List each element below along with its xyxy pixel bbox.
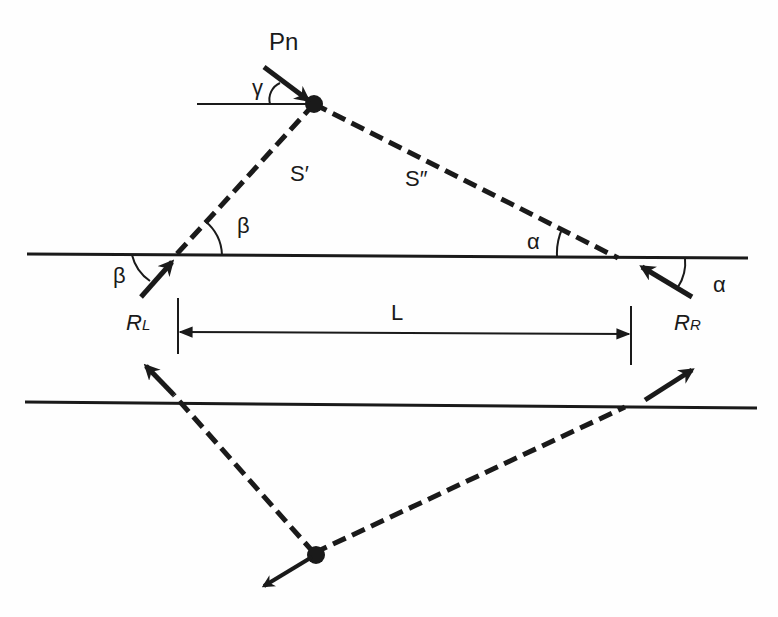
diagram-canvas: Pn γ S′ S″ β β α α RL RR L: [0, 0, 778, 617]
upper-beam-line: [27, 254, 748, 258]
label-gamma-text: γ: [252, 75, 263, 100]
lower-left-dashed-strut: [174, 395, 314, 553]
label-alpha-right-text: α: [713, 272, 726, 297]
lower-right-arrow: [645, 370, 692, 400]
label-reaction-right-main: R: [674, 310, 690, 335]
beta-arc-left: [132, 255, 150, 281]
reaction-arrow-left: [141, 262, 172, 297]
label-span-L-text: L: [391, 300, 403, 325]
lower-left-arrow: [146, 366, 174, 395]
label-gamma: γ: [252, 77, 263, 99]
label-beta-left-text: β: [113, 263, 126, 288]
label-reaction-right-sub: R: [690, 316, 701, 333]
label-pn: Pn: [269, 30, 298, 54]
label-alpha-right: α: [713, 274, 726, 296]
diagram-svg: [0, 0, 778, 617]
label-pn-text: Pn: [269, 28, 298, 55]
label-span-L: L: [391, 302, 403, 324]
beta-arc-upper: [205, 221, 222, 255]
label-reaction-right: RR: [674, 312, 701, 334]
lower-beam-line: [25, 402, 757, 408]
label-reaction-left: RL: [126, 312, 150, 334]
label-s-double-prime: S″: [405, 168, 427, 190]
label-s-prime: S′: [290, 163, 309, 185]
label-reaction-left-main: R: [126, 310, 142, 335]
label-reaction-left-sub: L: [142, 316, 150, 333]
label-alpha-upper-text: α: [527, 229, 540, 254]
alpha-arc-upper: [557, 229, 562, 256]
lower-right-dashed-strut: [314, 407, 625, 553]
gamma-arc: [269, 83, 280, 104]
strut-s-double-prime: [314, 104, 618, 258]
dimension-line-L: [180, 332, 629, 334]
label-alpha-upper: α: [527, 231, 540, 253]
label-beta-upper-text: β: [237, 213, 250, 238]
label-beta-upper: β: [237, 215, 250, 237]
lower-node-arrow: [264, 557, 312, 586]
alpha-arc-right: [678, 258, 685, 287]
lower-node: [307, 546, 325, 564]
label-s-double-prime-text: S″: [405, 166, 427, 191]
label-beta-left: β: [113, 265, 126, 287]
label-s-prime-text: S′: [290, 161, 309, 186]
